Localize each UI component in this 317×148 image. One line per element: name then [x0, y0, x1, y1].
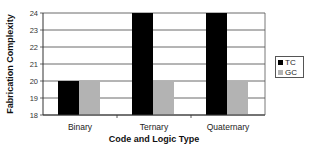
- x-category-label: Quaternary: [207, 122, 250, 132]
- y-tick-label: 24: [30, 9, 38, 18]
- y-tick-label: 20: [30, 77, 38, 86]
- legend-swatch-tc: [278, 60, 283, 65]
- y-tick-label: 18: [30, 111, 38, 120]
- bar-tc-binary: [58, 81, 79, 115]
- legend-label-gc: GC: [285, 68, 297, 77]
- legend-item-tc: TC: [276, 57, 303, 67]
- legend: TC GC: [275, 56, 304, 78]
- y-tick-label: 21: [30, 60, 38, 69]
- y-axis-title: Fabrication Complexity: [5, 14, 15, 114]
- y-tick-label: 22: [30, 43, 38, 52]
- legend-swatch-gc: [278, 70, 283, 75]
- bar-gc-binary: [79, 81, 100, 115]
- bar-tc-quaternary: [206, 13, 227, 115]
- x-axis-title: Code and Logic Type: [109, 134, 199, 144]
- x-category-labels: BinaryTernaryQuaternary: [68, 122, 250, 132]
- y-tick-labels: 18192021222324: [30, 9, 38, 120]
- y-tick-label: 19: [30, 94, 38, 103]
- x-category-label: Ternary: [140, 122, 169, 132]
- x-category-label: Binary: [68, 122, 93, 132]
- bar-gc-ternary: [153, 81, 174, 115]
- legend-label-tc: TC: [285, 58, 296, 67]
- bar-chart: 18192021222324 BinaryTernaryQuaternary F…: [0, 0, 317, 148]
- y-tick-label: 23: [30, 26, 38, 35]
- legend-item-gc: GC: [276, 67, 303, 77]
- bar-tc-ternary: [132, 13, 153, 115]
- bar-gc-quaternary: [227, 81, 248, 115]
